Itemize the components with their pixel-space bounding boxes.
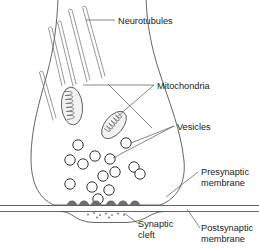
membranes-group	[0, 206, 259, 223]
active-zone-density	[118, 201, 128, 206]
active-zone-density	[67, 201, 77, 206]
leader-line-vesicles-upper	[131, 126, 174, 143]
leader-line-mitochondria-lower	[118, 85, 154, 116]
cleft-dot	[96, 217, 98, 219]
neurotubule-2b	[58, 24, 73, 86]
vesicle	[65, 179, 75, 189]
vesicle	[121, 138, 131, 148]
cleft-dot	[105, 213, 107, 215]
cleft-dot	[111, 214, 113, 216]
cleft-dot	[117, 213, 119, 215]
vesicle	[78, 159, 88, 169]
vesicle	[98, 171, 108, 181]
label-presynaptic-membrane-line1: Presynaptic	[201, 167, 249, 177]
cleft-dot	[99, 214, 101, 216]
vesicle	[73, 140, 83, 150]
neurotubule-5b	[40, 74, 53, 120]
cleft-dot	[93, 212, 95, 214]
cleft-dot	[87, 214, 89, 216]
vesicle	[135, 169, 145, 179]
active-zone-density	[106, 201, 116, 206]
neurotubule-3b	[69, 12, 87, 82]
active-zone-density	[79, 201, 89, 206]
cleft-dot	[108, 217, 110, 219]
synapse-diagram: Neurotubules Mitochondria Vesicles Presy…	[0, 0, 259, 249]
active-zone-density	[130, 201, 140, 206]
neurotubule-2	[57, 21, 76, 84]
vesicle	[90, 151, 100, 161]
neurotubule-1	[48, 27, 65, 84]
vesicle	[104, 185, 114, 195]
mitochondria-group	[60, 86, 131, 143]
label-neurotubules: Neurotubules	[118, 16, 173, 26]
label-synaptic-cleft-line1: Synaptic	[138, 219, 174, 229]
label-postsynaptic-membrane-line2: membrane	[201, 234, 245, 244]
label-presynaptic-membrane-line2: membrane	[201, 178, 245, 188]
vesicle	[65, 155, 75, 165]
cleft-dot	[123, 214, 125, 216]
label-mitochondria: Mitochondria	[157, 81, 210, 91]
active-zone-densities-group	[67, 201, 140, 206]
label-vesicles: Vesicles	[177, 122, 211, 132]
labels-group: Neurotubules Mitochondria Vesicles Presy…	[118, 16, 253, 245]
neurotubule-4b	[83, 9, 102, 78]
vesicle	[87, 182, 97, 192]
neurotubule-4	[82, 6, 105, 76]
cleft-dots-group	[87, 212, 125, 218]
vesicle	[105, 154, 115, 164]
label-synaptic-cleft-line2: cleft	[138, 230, 155, 240]
leader-line-presynaptic-membrane	[166, 172, 198, 197]
vesicle	[110, 167, 120, 177]
label-postsynaptic-membrane-line1: Postsynaptic	[201, 223, 253, 233]
